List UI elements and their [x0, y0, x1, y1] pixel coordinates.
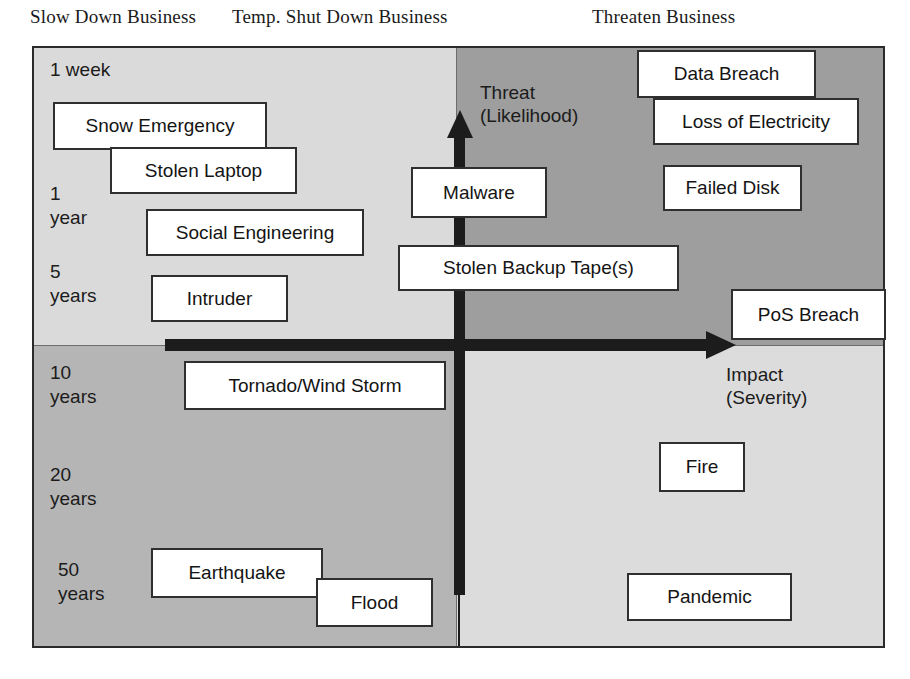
- threat-axis-arrowhead-icon: [447, 110, 473, 138]
- risk-matrix-diagram: Slow Down Business Temp. Shut Down Busin…: [0, 0, 910, 679]
- risk-box-malware[interactable]: Malware: [411, 167, 547, 218]
- risk-box-social-engineering[interactable]: Social Engineering: [146, 209, 364, 256]
- risk-box-stolen-backup-tapes[interactable]: Stolen Backup Tape(s): [398, 245, 679, 291]
- risk-box-stolen-laptop[interactable]: Stolen Laptop: [110, 147, 297, 194]
- frequency-label-20-years: 20 years: [50, 463, 96, 511]
- frequency-label-50-years: 50 years: [58, 558, 104, 606]
- risk-box-data-breach[interactable]: Data Breach: [637, 50, 816, 98]
- matrix-frame: Threat (Likelihood) Impact (Severity) 1 …: [32, 46, 885, 648]
- risk-box-pandemic[interactable]: Pandemic: [627, 573, 792, 621]
- risk-box-loss-of-electricity[interactable]: Loss of Electricity: [653, 98, 859, 145]
- frequency-label-1-year: 1 year: [50, 182, 87, 230]
- risk-box-flood[interactable]: Flood: [316, 578, 433, 627]
- frequency-label-5-years: 5 years: [50, 260, 96, 308]
- frequency-label-1-week: 1 week: [50, 58, 110, 82]
- column-header-temp-shut-down-business: Temp. Shut Down Business: [232, 6, 448, 28]
- risk-box-tornado-wind-storm[interactable]: Tornado/Wind Storm: [184, 361, 446, 410]
- column-header-threaten-business: Threaten Business: [592, 6, 735, 28]
- risk-box-snow-emergency[interactable]: Snow Emergency: [53, 102, 267, 150]
- column-header-slow-down-business: Slow Down Business: [30, 6, 196, 28]
- threat-axis-tail: [458, 595, 460, 646]
- risk-box-pos-breach[interactable]: PoS Breach: [731, 289, 886, 340]
- threat-axis-label: Threat (Likelihood): [480, 81, 578, 127]
- risk-box-failed-disk[interactable]: Failed Disk: [663, 165, 802, 211]
- risk-box-earthquake[interactable]: Earthquake: [151, 548, 323, 598]
- impact-axis-label: Impact (Severity): [726, 363, 807, 409]
- risk-box-intruder[interactable]: Intruder: [151, 275, 288, 322]
- impact-axis-shaft: [165, 339, 710, 351]
- frequency-label-10-years: 10 years: [50, 361, 96, 409]
- risk-box-fire[interactable]: Fire: [659, 442, 745, 492]
